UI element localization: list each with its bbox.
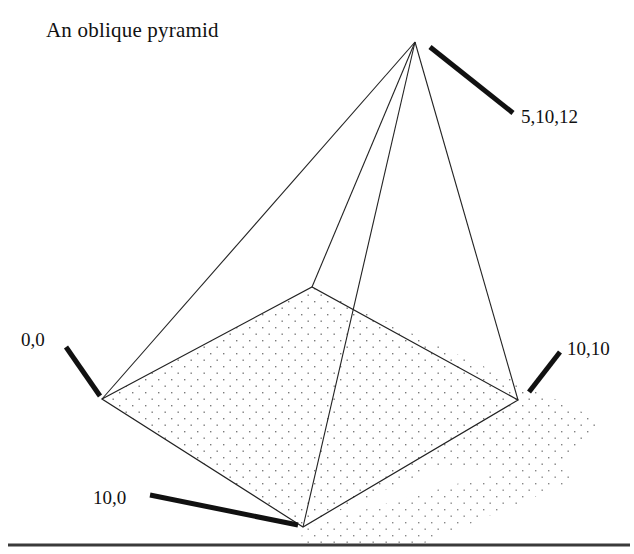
edge-apex-to-base-back <box>312 42 415 287</box>
apex-coordinate-label: 5,10,12 <box>521 107 578 126</box>
leader-line-origin <box>66 347 100 396</box>
base-origin-coordinate-label: 0,0 <box>21 330 45 349</box>
leader-line-apex <box>430 47 513 113</box>
base-right-coordinate-label: 10,10 <box>567 339 610 358</box>
pyramid-drawing <box>0 0 634 554</box>
pyramid-figure: An oblique pyramid 5,10,12 0,0 10,10 10,… <box>0 0 634 554</box>
figure-title: An oblique pyramid <box>46 20 219 41</box>
leader-line-right <box>529 352 560 392</box>
base-front-coordinate-label: 10,0 <box>93 488 126 507</box>
